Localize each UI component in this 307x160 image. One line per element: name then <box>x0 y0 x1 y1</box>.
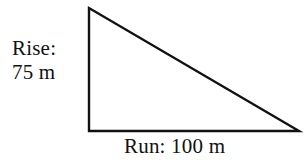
run-label: Run: 100 m <box>124 134 225 158</box>
rise-label-line-2: 75 m <box>12 60 56 84</box>
triangle-outline <box>89 8 299 131</box>
figure-canvas: Rise: 75 m Run: 100 m <box>0 0 307 160</box>
rise-label-line-1: Rise: <box>12 36 56 60</box>
rise-label: Rise: 75 m <box>12 36 56 84</box>
